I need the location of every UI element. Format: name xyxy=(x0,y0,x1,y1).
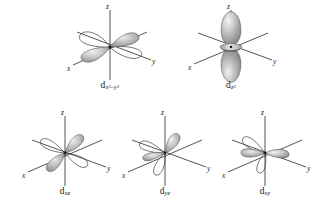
z-axis-label: z xyxy=(60,108,64,117)
lobe-solid-upper-right xyxy=(65,134,84,153)
lobe-solid-upper-z xyxy=(221,12,241,46)
orbital-label-dyz: dyz xyxy=(110,186,220,196)
x-axis-label: x xyxy=(221,171,226,180)
x-axis-label: x xyxy=(21,171,26,180)
orbital-svg-dxy: z x y xyxy=(210,108,320,190)
orbital-diagram-dz2: z x y dz2 xyxy=(176,2,286,102)
orbital-label-dxy: dxy xyxy=(210,186,320,196)
orbital-label-exp2: 2 xyxy=(117,85,119,90)
lobe-outline-back-left xyxy=(79,32,110,47)
orbital-svg-dz2: z x y xyxy=(176,2,286,84)
nucleus-dot xyxy=(109,46,112,49)
orbital-svg-dyz: z x y xyxy=(110,108,220,190)
orbital-label-sub: xz xyxy=(65,189,71,196)
nucleus-dot xyxy=(64,152,67,155)
lobe-outline-back-right xyxy=(110,46,142,58)
axes-group xyxy=(228,116,306,186)
orbital-diagram-dxy: z x y dxy xyxy=(210,108,320,208)
z-axis-label: z xyxy=(260,108,264,117)
nucleus-dot xyxy=(230,46,233,49)
orbital-label-dx2y2: dx2–y2 xyxy=(55,80,165,90)
lobe-solid-front-left xyxy=(81,47,110,62)
orbital-svg-dxz: z x y xyxy=(10,108,120,190)
lobe-solid-lower-left xyxy=(143,152,165,161)
orbital-diagram-dx2y2: z x y dx2–y2 xyxy=(55,2,165,102)
orbital-svg-dx2y2: z x y xyxy=(55,2,165,84)
orbital-diagram-dyz: z x y dyz xyxy=(110,108,220,208)
z-axis-label: z xyxy=(226,2,230,11)
z-axis-label: z xyxy=(105,2,109,11)
y-axis-label: y xyxy=(272,57,277,66)
nucleus-dot xyxy=(164,152,167,155)
orbital-label-dxz: dxz xyxy=(10,186,120,196)
lobe-solid-left xyxy=(241,149,265,157)
orbital-label-sub: xy xyxy=(265,189,271,196)
y-axis-label: y xyxy=(306,164,311,173)
orbital-label-exp1: 2 xyxy=(234,85,236,90)
x-axis-label: x xyxy=(187,63,192,72)
lobe-outline-lower-right xyxy=(65,153,88,167)
lobe-solid-right xyxy=(265,149,289,158)
d-orbital-figure: z x y dx2–y2 xyxy=(0,0,323,217)
lobe-solid-lower-z xyxy=(221,48,241,82)
orbital-diagram-dxz: z x y dxz xyxy=(10,108,120,208)
x-axis-label: x xyxy=(121,171,126,180)
x-axis-label: x xyxy=(66,64,71,73)
lobe-solid-lower-left xyxy=(46,153,65,172)
orbital-label-dz2: dz2 xyxy=(176,80,286,90)
nucleus-dot xyxy=(264,152,267,155)
y-axis-label: y xyxy=(151,57,156,66)
orbital-label-sub: yz xyxy=(165,189,171,196)
lobe-solid-front-right xyxy=(110,33,139,47)
z-axis-label: z xyxy=(160,108,164,117)
